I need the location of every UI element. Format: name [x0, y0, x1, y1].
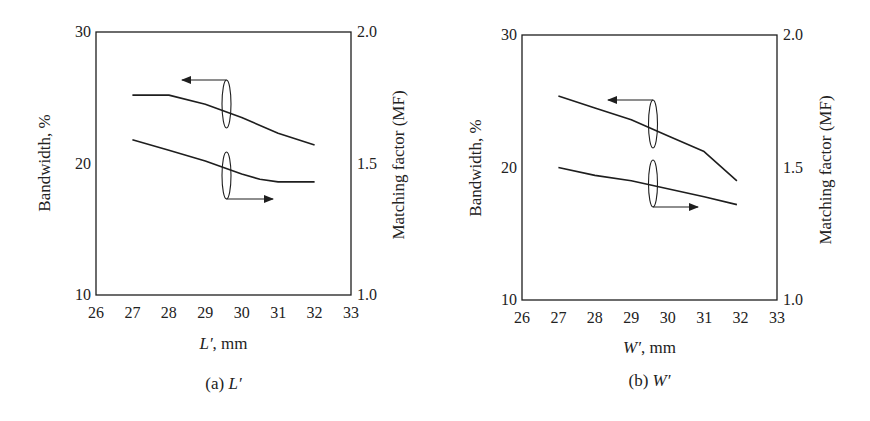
- x-tick-label: 29: [197, 304, 213, 321]
- y2-tick-label: 1.0: [783, 291, 803, 308]
- figure-caption: (a) L′: [205, 374, 242, 393]
- series-marker-ellipse: [222, 80, 231, 128]
- x-tick-label: 31: [270, 304, 286, 321]
- y-tick-label: 20: [501, 159, 517, 176]
- x-tick-label: 28: [587, 309, 603, 326]
- chart-b-svg: 26272829303132331020301.01.52.0Bandwidth…: [435, 0, 870, 421]
- x-tick-label: 30: [234, 304, 250, 321]
- x-tick-label: 29: [623, 309, 639, 326]
- x-tick-label: 33: [343, 304, 359, 321]
- x-axis-label: L′, mm: [198, 334, 247, 353]
- x-tick-label: 28: [161, 304, 177, 321]
- series-marker-ellipse: [649, 100, 658, 148]
- y-tick-label: 30: [75, 23, 91, 40]
- x-tick-label: 26: [88, 304, 104, 321]
- x-tick-label: 33: [769, 309, 785, 326]
- y-axis-label: Bandwidth, %: [466, 119, 485, 216]
- plot-frame: [96, 32, 351, 295]
- x-axis-label: W′, mm: [623, 338, 676, 357]
- y-tick-label: 30: [501, 26, 517, 43]
- x-tick-label: 27: [124, 304, 140, 321]
- bandwidth-line: [558, 96, 737, 181]
- x-tick-label: 31: [696, 309, 712, 326]
- series-marker-ellipse: [649, 160, 658, 207]
- y2-axis-label: Matching factor (MF): [816, 95, 835, 244]
- series-marker-ellipse: [222, 152, 231, 199]
- figure-panel-a: 26272829303132331020301.01.52.0Bandwidth…: [0, 0, 435, 421]
- x-tick-label: 32: [733, 309, 749, 326]
- x-tick-label: 30: [660, 309, 676, 326]
- y-tick-label: 10: [501, 291, 517, 308]
- y2-tick-label: 2.0: [783, 26, 803, 43]
- y2-axis-label: Matching factor (MF): [389, 90, 408, 239]
- y2-tick-label: 2.0: [357, 23, 377, 40]
- y2-tick-label: 1.5: [783, 159, 803, 176]
- y-tick-label: 10: [75, 286, 91, 303]
- chart-a-svg: 26272829303132331020301.01.52.0Bandwidth…: [0, 0, 435, 421]
- matching-factor-line: [558, 168, 737, 205]
- y-axis-label: Bandwidth, %: [35, 114, 54, 211]
- x-tick-label: 32: [307, 304, 323, 321]
- y2-tick-label: 1.0: [357, 286, 377, 303]
- y-tick-label: 20: [75, 155, 91, 172]
- x-tick-label: 27: [550, 309, 566, 326]
- x-tick-label: 26: [514, 309, 530, 326]
- y2-tick-label: 1.5: [357, 155, 377, 172]
- figure-panel-b: 26272829303132331020301.01.52.0Bandwidth…: [435, 0, 870, 421]
- figure-caption: (b) W′: [629, 371, 671, 390]
